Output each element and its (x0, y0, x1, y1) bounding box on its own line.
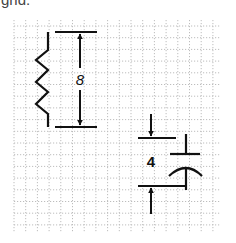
capacitor-dimension (138, 114, 186, 214)
capacitor-dimension-label: 4 (147, 153, 156, 170)
resistor-symbol (36, 32, 48, 127)
schematic-diagram: 8 4 (0, 0, 236, 243)
grid-vertical-lines (14, 20, 213, 232)
resistor-zigzag (36, 32, 48, 127)
capacitor-symbol (169, 134, 202, 190)
resistor-dimension-label: 8 (76, 71, 85, 88)
